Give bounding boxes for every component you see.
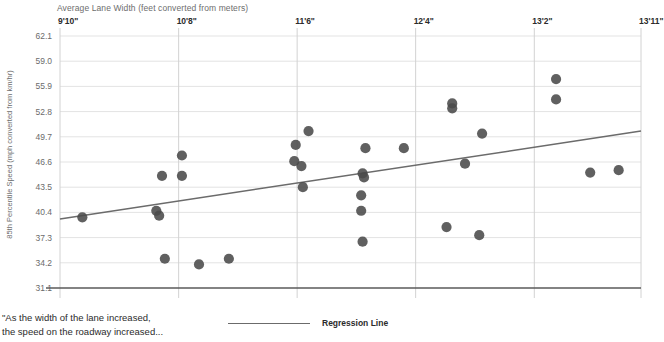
data-point bbox=[77, 212, 87, 222]
data-point bbox=[160, 254, 170, 264]
data-point bbox=[356, 206, 366, 216]
data-point bbox=[460, 159, 470, 169]
data-point bbox=[474, 230, 484, 240]
vertical-gridlines bbox=[60, 28, 641, 298]
data-point bbox=[298, 182, 308, 192]
data-point bbox=[303, 126, 313, 136]
data-point bbox=[157, 171, 167, 181]
data-point bbox=[614, 165, 624, 175]
data-point bbox=[477, 128, 487, 138]
data-point bbox=[399, 143, 409, 153]
regression-line bbox=[60, 131, 641, 219]
data-point bbox=[551, 74, 561, 84]
legend-label-regression: Regression Line bbox=[322, 318, 388, 328]
data-point bbox=[177, 171, 187, 181]
data-point bbox=[551, 94, 561, 104]
data-point bbox=[356, 190, 366, 200]
data-point bbox=[224, 254, 234, 264]
legend-line-swatch bbox=[228, 323, 310, 324]
caption-text: "As the width of the lane increased, the… bbox=[2, 311, 163, 338]
data-point bbox=[154, 211, 164, 221]
data-point bbox=[291, 140, 301, 150]
data-point bbox=[441, 222, 451, 232]
data-point bbox=[360, 143, 370, 153]
data-point bbox=[357, 237, 367, 247]
horizontal-gridlines bbox=[60, 36, 641, 263]
data-point bbox=[447, 103, 457, 113]
data-point bbox=[177, 150, 187, 160]
data-point bbox=[585, 167, 595, 177]
data-point bbox=[296, 161, 306, 171]
data-point bbox=[359, 172, 369, 182]
data-points bbox=[77, 74, 624, 270]
data-point bbox=[194, 259, 204, 269]
